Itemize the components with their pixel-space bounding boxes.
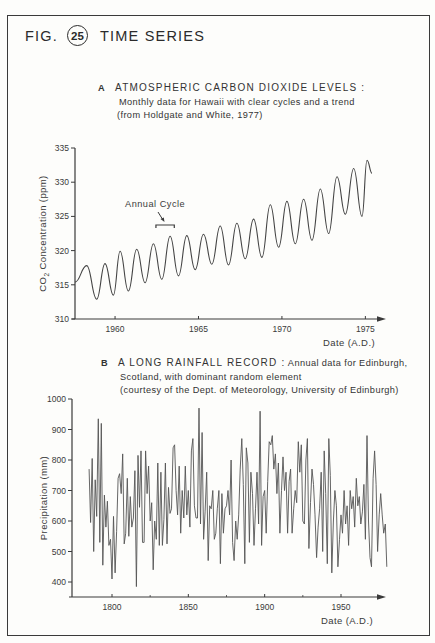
x-tick-label: 1900 <box>255 602 274 612</box>
y-tick-label: 500 <box>52 547 66 557</box>
x-tick-label: 1800 <box>103 602 122 612</box>
x-axis-arrow-icon <box>377 316 386 322</box>
y-tick-label: 800 <box>52 455 66 465</box>
x-tick-label: 1965 <box>189 324 208 334</box>
y-axis-label: Precipitation (mm) <box>38 456 49 540</box>
y-tick-label: 330 <box>55 177 69 187</box>
x-axis-label: Date (A.D.) <box>321 615 373 626</box>
x-tick-label: 1970 <box>272 324 291 334</box>
rainfall-line <box>89 408 387 586</box>
y-tick-label: 400 <box>52 577 66 587</box>
y-tick-label: 600 <box>52 516 66 526</box>
annotation-arrowhead-icon <box>161 218 165 223</box>
charts-canvas: 3103153203253303351960196519701975Date (… <box>0 0 435 643</box>
y-tick-label: 325 <box>55 211 69 221</box>
y-axis-label: CO2 Concentration (ppm) <box>37 175 50 291</box>
x-axis-arrow-icon <box>377 594 386 600</box>
y-tick-label: 315 <box>55 280 69 290</box>
y-tick-label: 335 <box>55 143 69 153</box>
x-tick-label: 1850 <box>179 602 198 612</box>
annual-cycle-annotation: Annual Cycle <box>125 199 185 209</box>
y-tick-label: 700 <box>52 486 66 496</box>
x-tick-label: 1950 <box>332 602 351 612</box>
y-tick-label: 1000 <box>47 394 66 404</box>
annual-cycle-bracket <box>156 225 174 228</box>
rainfall-chart: 40050060070080090010001800185019001950Da… <box>38 394 387 626</box>
x-tick-label: 1960 <box>106 324 125 334</box>
x-tick-label: 1975 <box>356 324 375 334</box>
y-tick-label: 320 <box>55 246 69 256</box>
co2-line <box>75 160 372 299</box>
x-axis-label: Date (A.D.) <box>323 337 375 348</box>
co2-chart: 3103153203253303351960196519701975Date (… <box>37 143 386 348</box>
y-tick-label: 310 <box>55 314 69 324</box>
y-tick-label: 900 <box>52 425 66 435</box>
